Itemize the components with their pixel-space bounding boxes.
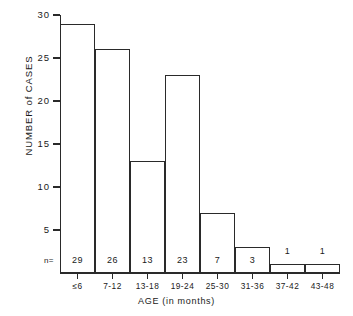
- y-tick-label: 25: [10, 52, 50, 63]
- y-tick-mark: [53, 57, 60, 58]
- x-tick-mark: [252, 273, 253, 279]
- n-value: 13: [130, 255, 165, 265]
- n-value: 26: [95, 255, 130, 265]
- bar: [305, 264, 340, 273]
- n-value: 29: [60, 255, 95, 265]
- x-tick-label: 31-36: [235, 281, 270, 291]
- x-tick-label: ≤6: [60, 281, 95, 291]
- x-tick-label: 7-12: [95, 281, 130, 291]
- n-value: 23: [165, 255, 200, 265]
- histogram-figure: NUMBER of CASES 51015202530 ≤67-1213-181…: [0, 0, 353, 316]
- y-tick-mark: [53, 143, 60, 144]
- x-tick-mark: [147, 273, 148, 279]
- x-tick-mark: [112, 273, 113, 279]
- x-tick-label: 19-24: [165, 281, 200, 291]
- y-tick-label: 20: [10, 95, 50, 106]
- x-tick-mark: [217, 273, 218, 279]
- n-prefix-label: n=: [44, 256, 54, 265]
- n-value: 3: [235, 255, 270, 265]
- x-axis-title: AGE (in months): [0, 296, 353, 306]
- n-value: 1: [270, 246, 305, 256]
- y-tick-label: 10: [10, 181, 50, 192]
- x-tick-mark: [77, 273, 78, 279]
- x-tick-label: 25-30: [200, 281, 235, 291]
- y-tick-mark: [53, 14, 60, 15]
- x-tick-mark: [287, 273, 288, 279]
- y-tick-label: 5: [10, 224, 50, 235]
- x-tick-label: 43-48: [305, 281, 340, 291]
- bar: [95, 49, 130, 273]
- y-tick-label: 15: [10, 138, 50, 149]
- bar: [60, 24, 95, 273]
- y-tick-mark: [53, 229, 60, 230]
- bar: [270, 264, 305, 273]
- x-tick-label: 13-18: [130, 281, 165, 291]
- y-tick-mark: [53, 186, 60, 187]
- x-tick-label: 37-42: [270, 281, 305, 291]
- n-value: 1: [305, 246, 340, 256]
- y-tick-label: 30: [10, 9, 50, 20]
- n-value: 7: [200, 255, 235, 265]
- x-tick-mark: [182, 273, 183, 279]
- y-tick-mark: [53, 100, 60, 101]
- x-tick-mark: [322, 273, 323, 279]
- bar: [165, 75, 200, 273]
